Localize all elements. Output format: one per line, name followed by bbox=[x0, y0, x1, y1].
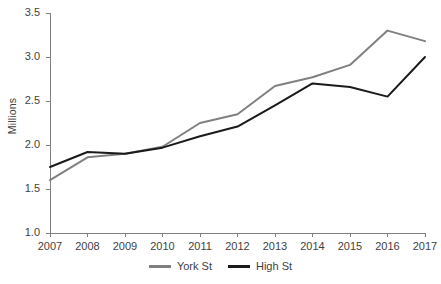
x-tick-label: 2017 bbox=[405, 240, 441, 252]
y-tick-label: 1.5 bbox=[14, 182, 40, 194]
y-tick-label: 3.5 bbox=[14, 6, 40, 18]
x-tick-label: 2010 bbox=[143, 240, 183, 252]
legend-swatch-icon bbox=[228, 265, 250, 268]
y-tick-label: 2.5 bbox=[14, 94, 40, 106]
x-tick-label: 2015 bbox=[330, 240, 370, 252]
legend-item-high-st[interactable]: High St bbox=[228, 260, 292, 272]
series-line-york-st bbox=[50, 31, 425, 181]
line-chart: Millions 1.01.52.02.53.03.5 200720082009… bbox=[0, 0, 441, 284]
tick-marks bbox=[46, 13, 425, 237]
x-tick-label: 2011 bbox=[180, 240, 220, 252]
legend-label: York St bbox=[177, 260, 212, 272]
x-tick-label: 2014 bbox=[293, 240, 333, 252]
x-tick-label: 2009 bbox=[105, 240, 145, 252]
legend-item-york-st[interactable]: York St bbox=[149, 260, 212, 272]
x-tick-label: 2013 bbox=[255, 240, 295, 252]
x-tick-label: 2012 bbox=[218, 240, 258, 252]
series-line-high-st bbox=[50, 57, 425, 167]
y-tick-label: 1.0 bbox=[14, 226, 40, 238]
y-tick-label: 2.0 bbox=[14, 138, 40, 150]
chart-legend: York StHigh St bbox=[0, 260, 441, 272]
x-tick-label: 2008 bbox=[68, 240, 108, 252]
x-tick-label: 2016 bbox=[368, 240, 408, 252]
axis-lines bbox=[50, 13, 425, 233]
y-tick-label: 3.0 bbox=[14, 50, 40, 62]
legend-label: High St bbox=[256, 260, 292, 272]
x-tick-label: 2007 bbox=[30, 240, 70, 252]
legend-swatch-icon bbox=[149, 265, 171, 268]
series-lines bbox=[50, 31, 425, 181]
